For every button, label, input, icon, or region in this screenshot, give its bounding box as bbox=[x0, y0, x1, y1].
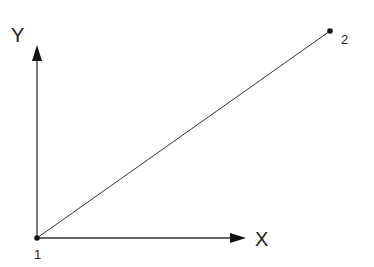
x-axis-label: X bbox=[255, 228, 268, 250]
x-axis-arrowhead bbox=[230, 233, 246, 243]
y-axis-arrowhead bbox=[32, 45, 42, 61]
diagram-canvas: Y X 1 2 bbox=[0, 0, 374, 267]
point-2-marker bbox=[327, 28, 333, 34]
point-1-label: 1 bbox=[34, 247, 41, 262]
point-1-marker bbox=[34, 235, 40, 241]
point-2-label: 2 bbox=[341, 32, 348, 47]
y-axis-label: Y bbox=[11, 24, 24, 46]
segment-1-2 bbox=[37, 31, 330, 238]
coordinate-diagram: Y X 1 2 bbox=[0, 0, 374, 267]
